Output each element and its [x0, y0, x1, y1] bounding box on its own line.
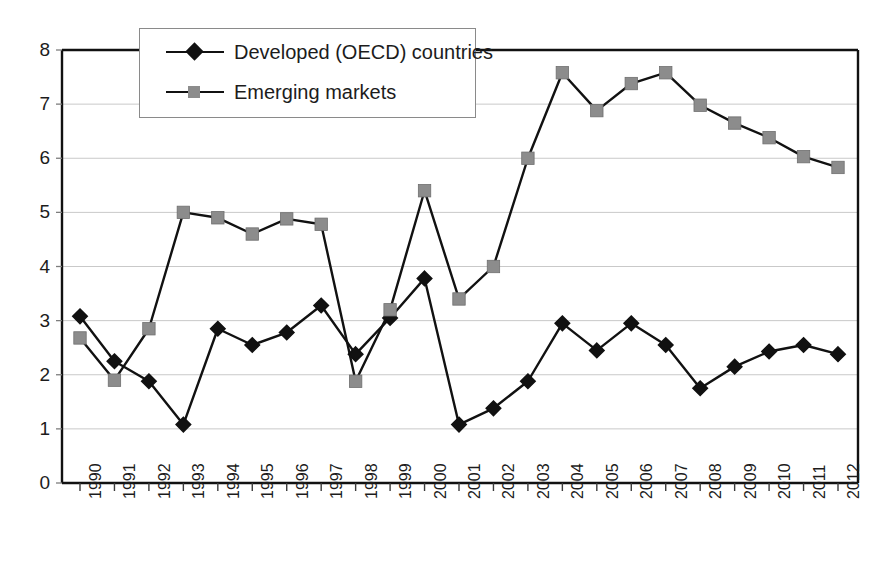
data-point-emerging	[832, 161, 844, 173]
data-point-emerging	[797, 150, 809, 162]
x-axis-tick-label: 2009	[742, 463, 760, 499]
legend-diamond-icon	[166, 45, 224, 59]
series-line-emerging	[80, 73, 838, 382]
data-point-emerging	[349, 375, 361, 387]
data-point-emerging	[522, 152, 534, 164]
x-axis-tick-label: 1995	[259, 463, 277, 499]
data-point-emerging	[384, 304, 396, 316]
y-axis-tick-label: 3	[20, 311, 50, 330]
data-point-emerging	[212, 212, 224, 224]
x-axis-tick-label: 2006	[638, 463, 656, 499]
data-point-emerging	[418, 185, 430, 197]
data-point-emerging	[108, 374, 120, 386]
data-point-oecd	[762, 344, 776, 358]
data-point-emerging	[487, 260, 499, 272]
y-axis-tick-label: 8	[20, 40, 50, 59]
x-axis-tick-label: 2011	[811, 465, 829, 499]
y-axis-tick-label: 4	[20, 257, 50, 276]
x-axis-tick-label: 1997	[328, 463, 346, 499]
x-axis-tick-label: 1991	[121, 463, 139, 499]
data-point-emerging	[246, 228, 258, 240]
legend-item-label: Emerging markets	[224, 81, 396, 104]
data-point-emerging	[625, 77, 637, 89]
data-point-emerging	[694, 99, 706, 111]
series-markers	[73, 67, 845, 432]
x-axis-tick-label: 2002	[500, 463, 518, 499]
x-axis-tick-label: 1999	[397, 463, 415, 499]
x-axis-tick-label: 2001	[466, 463, 484, 499]
x-axis-tick-label: 2005	[604, 463, 622, 499]
x-axis-tick-label: 2000	[432, 463, 450, 499]
legend-item-oecd: Developed (OECD) countries	[166, 41, 493, 63]
data-point-oecd	[452, 417, 466, 431]
data-point-emerging	[453, 293, 465, 305]
data-point-emerging	[763, 131, 775, 143]
data-point-oecd	[245, 338, 259, 352]
x-axis-tick-label: 2012	[845, 463, 863, 499]
x-axis-tick-label: 1996	[294, 463, 312, 499]
x-axis-tick-label: 1993	[190, 463, 208, 499]
x-axis-tick-label: 1998	[363, 463, 381, 499]
y-axis-tick-label: 7	[20, 94, 50, 113]
x-axis-tick-label: 2003	[535, 463, 553, 499]
data-point-emerging	[591, 104, 603, 116]
legend-item-emerging: Emerging markets	[166, 81, 396, 103]
x-axis-tick-label: 2004	[569, 463, 587, 499]
x-axis-tick-label: 1994	[225, 463, 243, 499]
y-axis-tick-label: 1	[20, 419, 50, 438]
data-point-emerging	[143, 323, 155, 335]
legend-item-label: Developed (OECD) countries	[224, 41, 493, 64]
data-point-emerging	[556, 67, 568, 79]
x-axis-tick-label: 2010	[776, 463, 794, 499]
data-point-emerging	[177, 206, 189, 218]
y-axis-tick-label: 5	[20, 202, 50, 221]
chart-legend: Developed (OECD) countries Emerging mark…	[139, 28, 476, 118]
legend-square-icon	[166, 85, 224, 99]
y-axis-tick-label: 2	[20, 365, 50, 384]
series-lines	[80, 73, 838, 425]
data-point-oecd	[211, 322, 225, 336]
data-point-oecd	[796, 338, 810, 352]
data-point-emerging	[728, 117, 740, 129]
x-axis-tick-label: 2008	[707, 463, 725, 499]
x-axis-tick-label: 2007	[673, 463, 691, 499]
y-axis-tick-label: 0	[20, 473, 50, 492]
data-point-emerging	[281, 213, 293, 225]
line-chart: 012345678 199019911992199319941995199619…	[0, 0, 891, 568]
y-axis-tick-label: 6	[20, 148, 50, 167]
x-axis-tick-label: 1990	[87, 463, 105, 499]
data-point-emerging	[74, 332, 86, 344]
data-point-oecd	[727, 359, 741, 373]
data-point-oecd	[831, 347, 845, 361]
data-point-emerging	[660, 67, 672, 79]
gridlines	[62, 104, 858, 429]
data-point-emerging	[315, 218, 327, 230]
x-axis-tick-label: 1992	[156, 463, 174, 499]
